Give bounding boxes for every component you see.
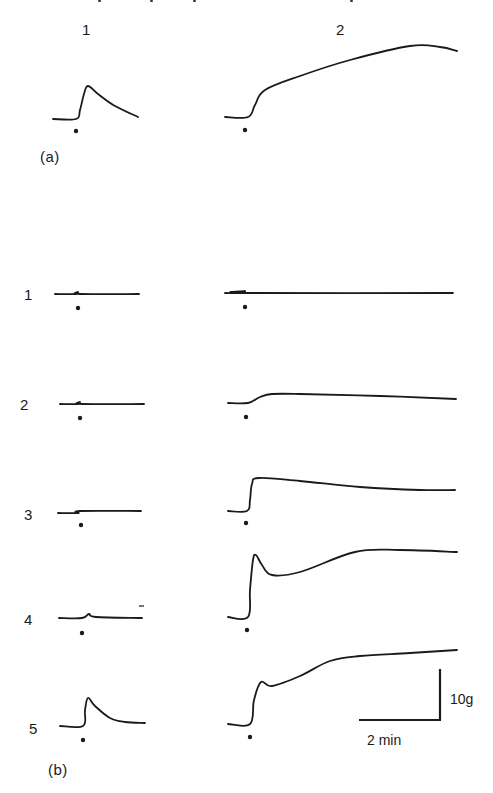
- trace-a-col1: [53, 86, 138, 120]
- stimulus-dot: [80, 631, 84, 635]
- scale-bar: [359, 669, 441, 720]
- stimulus-dot: [243, 128, 247, 132]
- stimulus-dot: [245, 628, 249, 632]
- trace-b-row1-col1: [55, 292, 139, 294]
- stimulus-dot: [248, 735, 252, 739]
- trace-b-row5-col1: [60, 698, 145, 727]
- stimulus-dot: [79, 523, 83, 527]
- figure: 1 2 (a) (b) 1 2 3 4 5 10g 2 min: [0, 0, 493, 793]
- stimulus-dot: [74, 129, 78, 133]
- trace-b-row4-col2: [228, 550, 457, 620]
- trace-b-row2-col2: [228, 394, 456, 404]
- stimulus-dot: [76, 306, 80, 310]
- trace-b-row2-col1: [60, 402, 144, 404]
- stimulus-dot: [243, 305, 247, 309]
- trace-b-row3-col1: [58, 511, 141, 513]
- stimulus-dot: [244, 521, 248, 525]
- trace-b-row1-col2: [225, 291, 453, 293]
- trace-canvas: [0, 0, 493, 793]
- stimulus-dot: [78, 416, 82, 420]
- stimulus-dot: [244, 415, 248, 419]
- trace-b-row4-col1: [59, 614, 142, 618]
- stimulus-dot: [81, 738, 85, 742]
- trace-b-row5-col2: [228, 650, 457, 726]
- trace-a-col2: [225, 45, 457, 118]
- trace-b-row3-col2: [228, 478, 455, 512]
